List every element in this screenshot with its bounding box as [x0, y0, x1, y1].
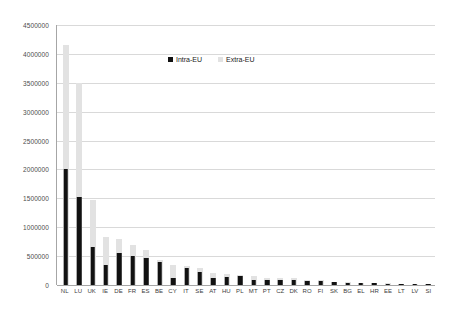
legend-swatch-icon-extra-eu: [218, 57, 223, 62]
legend-swatch-icon-intra-eu: [168, 57, 173, 62]
x-axis-tick-label: LV: [408, 288, 421, 302]
x-axis-tick-label: AT: [206, 288, 219, 302]
bar-intra-eu: [157, 262, 162, 285]
bar-intra-eu: [359, 283, 364, 285]
x-axis-tick-label: RO: [300, 288, 313, 302]
y-axis-tick-label: 0: [0, 282, 52, 289]
bar-intra-eu: [90, 247, 95, 285]
bar-intra-eu: [278, 280, 283, 285]
bar-intra-eu: [251, 280, 256, 285]
y-axis-tick-label: 3000000: [0, 108, 52, 115]
bar-group: [247, 25, 260, 285]
x-axis-tick-label: HU: [220, 288, 233, 302]
bar-group: [166, 25, 179, 285]
x-axis-tick-label: UK: [85, 288, 98, 302]
bar-group: [408, 25, 421, 285]
bar-group: [421, 25, 434, 285]
bar-intra-eu: [426, 284, 431, 285]
bar-group: [207, 25, 220, 285]
x-axis-tick-label: PL: [233, 288, 246, 302]
bar-group: [153, 25, 166, 285]
bar-chart: 4500000400000035000003000000250000020000…: [0, 0, 451, 316]
bar-group: [193, 25, 206, 285]
x-axis-tick-label: DE: [112, 288, 125, 302]
x-axis-tick-label: SI: [422, 288, 435, 302]
bar-intra-eu: [117, 253, 122, 285]
bar-intra-eu: [131, 256, 136, 285]
legend-label-intra-eu: Intra-EU: [176, 56, 202, 63]
bar-group: [327, 25, 340, 285]
x-axis-tick-label: PT: [260, 288, 273, 302]
x-axis-tick-label: SE: [193, 288, 206, 302]
bar-intra-eu: [305, 281, 310, 285]
x-axis-tick-label: DK: [287, 288, 300, 302]
bar-intra-eu: [386, 284, 391, 285]
y-axis-tick-label: 1000000: [0, 224, 52, 231]
y-axis-tick-label: 2000000: [0, 166, 52, 173]
bar-group: [354, 25, 367, 285]
bar-group: [341, 25, 354, 285]
bar-group: [381, 25, 394, 285]
bar-intra-eu: [77, 197, 82, 285]
bar-group: [220, 25, 233, 285]
x-axis-tick-label: FI: [314, 288, 327, 302]
x-axis: NLLUUKIEDEFRESBECYITSEATHUPLMTPTCZDKROFI…: [56, 288, 435, 302]
bar-intra-eu: [63, 169, 68, 285]
y-axis-tick-label: 4000000: [0, 50, 52, 57]
bar-intra-eu: [265, 280, 270, 285]
bar-group: [260, 25, 273, 285]
bar-group: [274, 25, 287, 285]
y-axis-tick-label: 2500000: [0, 137, 52, 144]
x-axis-tick-label: MT: [247, 288, 260, 302]
y-axis-tick-label: 3500000: [0, 79, 52, 86]
bar-intra-eu: [238, 276, 243, 285]
x-axis-tick-label: BG: [341, 288, 354, 302]
x-axis-tick-label: BE: [152, 288, 165, 302]
x-axis-tick-label: FR: [125, 288, 138, 302]
x-axis-tick-label: NL: [58, 288, 71, 302]
bar-group: [59, 25, 72, 285]
y-axis-tick-label: 4500000: [0, 22, 52, 29]
x-axis-tick-label: IT: [179, 288, 192, 302]
bar-group: [301, 25, 314, 285]
bar-intra-eu: [318, 281, 323, 285]
y-axis-tick-label: 1500000: [0, 195, 52, 202]
bar-intra-eu: [292, 280, 297, 285]
bar-group: [86, 25, 99, 285]
bar-intra-eu: [399, 284, 404, 285]
bar-group: [99, 25, 112, 285]
bar-intra-eu: [211, 278, 216, 286]
bar-intra-eu: [332, 282, 337, 285]
bar-group: [314, 25, 327, 285]
bar-group: [72, 25, 85, 285]
gridline: [57, 285, 435, 286]
bar-intra-eu: [412, 284, 417, 285]
bar-group: [113, 25, 126, 285]
x-axis-tick-label: CY: [166, 288, 179, 302]
x-axis-tick-label: SK: [327, 288, 340, 302]
x-axis-tick-label: HR: [368, 288, 381, 302]
bar-intra-eu: [372, 283, 377, 285]
bar-intra-eu: [225, 277, 230, 285]
bar-group: [395, 25, 408, 285]
plot-area: [56, 25, 435, 285]
bar-series-group: [57, 25, 435, 285]
x-axis-tick-label: EL: [354, 288, 367, 302]
x-axis-tick-label: EE: [381, 288, 394, 302]
bar-intra-eu: [184, 268, 189, 285]
x-axis-tick-label: IE: [98, 288, 111, 302]
bar-group: [180, 25, 193, 285]
x-axis-tick-label: LT: [395, 288, 408, 302]
legend-item-intra-eu: Intra-EU: [168, 56, 202, 63]
x-axis-tick-label: ES: [139, 288, 152, 302]
y-axis-tick-label: 500000: [0, 253, 52, 260]
bar-group: [368, 25, 381, 285]
bar-intra-eu: [144, 258, 149, 285]
chart-legend: Intra-EU Extra-EU: [168, 56, 254, 63]
x-axis-tick-label: CZ: [274, 288, 287, 302]
x-axis-tick-label: LU: [71, 288, 84, 302]
legend-label-extra-eu: Extra-EU: [226, 56, 254, 63]
bar-intra-eu: [345, 283, 350, 285]
bar-intra-eu: [171, 278, 176, 286]
bar-intra-eu: [198, 272, 203, 285]
